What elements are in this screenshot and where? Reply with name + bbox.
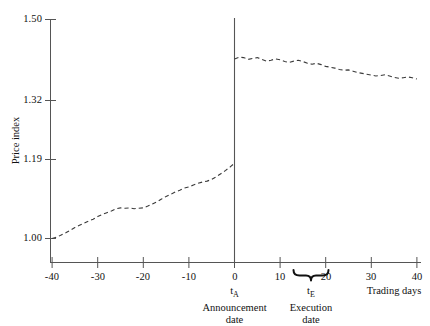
x-tick-label-40: 40 bbox=[397, 271, 430, 282]
x-tick-label--40: -40 bbox=[32, 271, 72, 282]
y-tick-label-100: 1.00 bbox=[0, 232, 42, 243]
y-axis-title: Price index bbox=[10, 101, 21, 181]
x-tick-label-20: 20 bbox=[306, 271, 346, 282]
x-tick-label--30: -30 bbox=[78, 271, 118, 282]
x-tick-label--20: -20 bbox=[123, 271, 163, 282]
x-tick-label-30: 30 bbox=[351, 271, 391, 282]
x-tick-label--10: -10 bbox=[169, 271, 209, 282]
price-index-chart: 1.50 1.32 1.19 1.00 Price index -40 -30 … bbox=[0, 0, 430, 326]
y-tick-label-132: 1.32 bbox=[0, 94, 42, 105]
y-tick-label-150: 1.50 bbox=[0, 13, 42, 24]
x-tick-label-0: 0 bbox=[215, 271, 255, 282]
x-axis-title: Trading days bbox=[357, 285, 430, 296]
series-post-announcement bbox=[235, 57, 417, 79]
y-tick-label-119: 1.19 bbox=[0, 153, 42, 164]
execution-line-2: date bbox=[264, 314, 358, 326]
series-pre-announcement bbox=[52, 163, 234, 238]
execution-line-1: Execution bbox=[264, 302, 358, 315]
execution-date-annotation: tE Execution date bbox=[264, 285, 358, 326]
x-tick-label-10: 10 bbox=[260, 271, 300, 282]
execution-symbol: tE bbox=[264, 285, 358, 302]
